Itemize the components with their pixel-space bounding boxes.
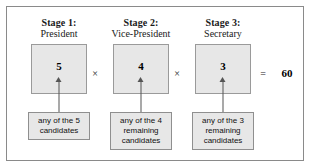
stage-2-count-value: 4	[114, 60, 168, 72]
stage-2-role: Vice-President	[98, 28, 184, 40]
stage-3-note-box: any of the 3 remaining candidates	[192, 112, 254, 150]
stage-3-count-value: 3	[196, 60, 250, 72]
stage-3-note-line-3: candidates	[197, 136, 249, 146]
stage-1-note-box: any of the 5 candidates	[28, 112, 90, 140]
multiplication-sign-2: ×	[170, 68, 184, 79]
result-value: 60	[274, 67, 300, 79]
stage-1-note-line-2: candidates	[33, 126, 85, 136]
stage-3-title: Stage 3:	[180, 17, 266, 28]
stage-2-note-box: any of the 4 remaining candidates	[110, 112, 172, 150]
stage-1-count-value: 5	[32, 60, 86, 72]
stage-1-role: President	[16, 28, 102, 40]
multiplication-sign-1: ×	[88, 68, 102, 79]
stage-3-count-box: 3	[195, 44, 251, 94]
stage-2-title: Stage 2:	[98, 17, 184, 28]
equals-sign: =	[256, 68, 270, 79]
stage-column-2: Stage 2: Vice-President 4 any of the 4 r…	[98, 17, 184, 94]
stage-column-3: Stage 3: Secretary 3 any of the 3 remain…	[180, 17, 266, 94]
stage-column-1: Stage 1: President 5 any of the 5 candid…	[16, 17, 102, 94]
stage-3-role: Secretary	[180, 28, 266, 40]
stage-2-count-box: 4	[113, 44, 169, 94]
stage-3-note-line-2: remaining	[197, 126, 249, 136]
stage-2-note-line-2: remaining	[115, 126, 167, 136]
stage-2-note-line-1: any of the 4	[115, 116, 167, 126]
stage-1-title: Stage 1:	[16, 17, 102, 28]
stage-3-note-line-1: any of the 3	[197, 116, 249, 126]
figure-canvas: Stage 1: President 5 any of the 5 candid…	[0, 0, 313, 168]
stage-1-count-box: 5	[31, 44, 87, 94]
stage-2-note-line-3: candidates	[115, 136, 167, 146]
stage-1-note-line-1: any of the 5	[33, 116, 85, 126]
